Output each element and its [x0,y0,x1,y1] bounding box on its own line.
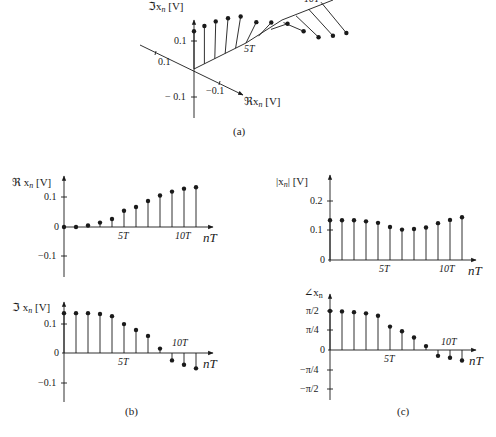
data-point [134,205,138,209]
data-point [340,309,344,313]
data-point [364,311,368,315]
data-point [328,218,332,222]
data-point [110,217,114,221]
imag-ylabel-sub: n [28,306,32,315]
data-point [436,221,440,225]
time-tick-10t: 10T [304,0,320,4]
imag-ytick-0.1: 0.1 [44,319,57,329]
phase-ytick-neg-pi4: −π/4 [300,365,318,375]
data-point [412,227,416,231]
imag-xlabel: nT [203,357,217,370]
phase-xtick-10t: 10T [441,337,457,347]
data-point [460,215,464,219]
data-point [146,199,150,203]
imag-xtick-10t: 10T [172,338,188,348]
phase-ylabel-text: ∠x [304,286,319,298]
data-point [134,328,138,332]
mag-ylabel: |xn| [V] [276,176,308,189]
phase-ytick-neg-pi2: −π/2 [300,384,318,394]
caption-c: (c) [397,406,409,417]
mag-xlabel: nT [468,264,482,277]
data-point [254,20,258,24]
data-point [122,209,126,213]
data-point [388,324,392,328]
data-point [62,311,66,315]
data-point [364,219,368,223]
real-ytick-0: 0 [54,222,59,232]
data-point [424,225,428,229]
mag-ylabel-unit: | [V] [288,175,308,187]
data-point [182,186,186,190]
data-point [192,29,196,33]
mag-ytick-0.2: 0.2 [310,196,323,206]
imag-xtick-5t: 5T [118,357,129,367]
imag-ylabel-unit: [V] [35,301,50,313]
re-axis-label-unit: [V] [265,95,280,107]
data-point [352,310,356,314]
data-point [170,189,174,193]
real-ylabel: ℜ xn [V] [12,177,51,190]
data-point [424,344,428,348]
data-point [448,356,452,360]
im-axis-label: ℑxn [V] [148,1,184,14]
caption-a: (a) [233,126,245,137]
panel-b-imag-plot [61,302,213,402]
data-point [194,366,198,370]
data-point [238,14,242,18]
data-point [376,313,380,317]
data-point [376,221,380,225]
real-ytick-0.1: 0.1 [44,192,57,202]
data-point [182,363,186,367]
data-point [110,314,114,318]
data-point [352,218,356,222]
mag-xtick-5t: 5T [379,264,390,274]
time-axis [194,0,333,69]
im-axis-label-text: ℑx [148,0,162,12]
data-point [448,218,452,222]
panel-c-magnitude-plot [327,175,476,262]
data-point [412,335,416,339]
data-point [328,309,332,313]
data-point [214,19,218,23]
data-point [158,193,162,197]
data-point [98,312,102,316]
real-ytick-neg0.1: −0.1 [38,251,56,261]
re-axis-label-sub: n [259,100,263,109]
real-ylabel-unit: [V] [36,176,51,188]
panel-b-real-plot [61,176,213,277]
data-point [170,358,174,362]
data-point [400,227,404,231]
data-point [74,225,78,229]
data-point [436,354,440,358]
re-tick-pos: 0.1 [158,57,171,67]
phase-xtick-5t: 5T [384,354,395,364]
phase-ylabel-sub: n [319,291,323,300]
data-point [86,223,90,227]
phase-ytick-pi4: π/4 [306,325,319,335]
real-ylabel-text: ℜ x [12,176,29,188]
data-point [226,16,230,20]
data-point [301,29,305,33]
re-axis-label-text: ℜx [244,95,259,107]
im-axis-label-unit: [V] [168,0,183,12]
data-point [269,20,273,24]
phase-ytick-0: 0 [320,345,325,355]
re-tick-neg: −0.1 [206,86,224,96]
data-point [388,225,392,229]
phase-xlabel: nT [469,354,483,367]
stems [328,215,464,260]
im-tick-pos: 0.1 [174,36,187,46]
data-point [74,311,78,315]
mag-ylabel-text: |x [276,175,284,187]
stems [62,185,198,229]
panel-c-phase-plot [327,294,476,400]
data-point [202,24,206,28]
figure-canvas [0,0,496,437]
real-ylabel-sub: n [29,181,33,190]
re-axis-label: ℜxn [V] [244,96,281,109]
imag-ytick-neg0.1: −0.1 [38,378,56,388]
data-point [98,220,102,224]
data-point [460,358,464,362]
imag-ylabel: ℑ xn [V] [12,302,50,315]
data-point [194,185,198,189]
